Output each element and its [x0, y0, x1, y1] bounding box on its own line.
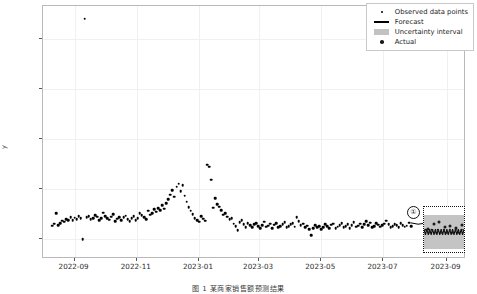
observed-data-point [283, 221, 286, 224]
observed-data-point [234, 225, 237, 228]
x-tick-mark [320, 258, 321, 261]
observed-data-point [92, 217, 95, 220]
observed-data-point [63, 220, 66, 223]
observed-data-point [224, 212, 227, 215]
observed-data-point [269, 222, 272, 225]
x-tick-mark [258, 258, 259, 261]
observed-data-point [385, 219, 388, 222]
observed-data-point [346, 223, 349, 226]
observed-data-point [114, 220, 117, 223]
observed-data-point [291, 222, 294, 225]
x-tick-label: 2023-07 [367, 262, 397, 271]
x-tick-label: 2022-09 [59, 262, 89, 271]
observed-data-point [230, 217, 233, 220]
observed-data-point [171, 189, 174, 192]
inset-zoom-box[interactable] [423, 206, 465, 253]
gridline-vertical [321, 6, 322, 257]
observed-data-point [192, 213, 195, 216]
observed-data-point [198, 220, 201, 223]
x-tick-label: 2023-09 [431, 262, 461, 271]
observed-data-point [102, 211, 105, 214]
observed-data-point [179, 190, 182, 193]
observed-data-point [112, 213, 115, 216]
observed-data-point [71, 219, 74, 222]
observed-data-point [151, 212, 154, 215]
observed-data-point [271, 227, 274, 230]
observed-data-point [275, 222, 278, 225]
observed-data-point [365, 220, 368, 223]
observed-data-point [255, 222, 258, 225]
observed-data-point [383, 222, 386, 225]
observed-data-point [167, 198, 170, 201]
observed-data-point [79, 217, 82, 220]
observed-data-point [75, 218, 78, 221]
legend-item-forecast[interactable]: Forecast [371, 17, 468, 27]
observed-data-point [165, 202, 168, 205]
observed-data-point [59, 222, 62, 225]
observed-data-point [132, 215, 135, 218]
observed-data-point [155, 210, 158, 213]
x-tick-mark [382, 258, 383, 261]
observed-data-point [306, 224, 309, 227]
observed-data-point [218, 205, 221, 208]
observed-data-point [147, 210, 150, 213]
observed-data-point [332, 222, 335, 225]
x-tick-mark [446, 258, 447, 261]
observed-data-point [220, 209, 223, 212]
observed-data-point [263, 220, 266, 223]
x-tick-label: 2023-01 [183, 262, 213, 271]
observed-data-point [318, 225, 321, 228]
actual-data-point [438, 220, 441, 223]
actual-data-point [432, 223, 435, 226]
observed-data-point [55, 212, 58, 215]
observed-data-point [308, 228, 311, 231]
observed-data-point [338, 224, 341, 227]
observed-data-point [349, 227, 352, 230]
x-tick-mark [74, 258, 75, 261]
observed-data-point [96, 215, 99, 218]
gridline-horizontal [43, 139, 464, 140]
gridline-horizontal [43, 89, 464, 90]
observed-data-point [240, 219, 243, 222]
observed-data-point [367, 224, 370, 227]
observed-data-point [245, 226, 248, 229]
observed-data-point [214, 197, 217, 200]
observed-data-point [145, 218, 148, 221]
legend-item-observed[interactable]: Observed data points [371, 7, 468, 17]
observed-data-point [161, 204, 164, 207]
legend-item-actual[interactable]: Actual [371, 37, 468, 47]
gridline-vertical [199, 6, 200, 257]
legend-item-uncertainty[interactable]: Uncertainty interval [371, 27, 468, 37]
observed-data-point [373, 225, 376, 228]
observed-data-point [236, 229, 239, 232]
observed-data-point [328, 227, 331, 230]
x-tick-label: 2022-11 [121, 262, 151, 271]
gridline-horizontal [43, 239, 464, 240]
observed-data-point [340, 222, 343, 225]
observed-data-point [208, 165, 211, 168]
observed-data-point [298, 220, 301, 223]
observed-data-point [322, 226, 325, 229]
observed-data-point [312, 227, 315, 230]
observed-data-point [183, 195, 186, 198]
observed-data-point [363, 223, 366, 226]
gridline-horizontal [43, 189, 464, 190]
observed-data-point [212, 207, 215, 210]
observed-data-point [410, 225, 413, 228]
legend-label-uncertainty: Uncertainty interval [393, 28, 463, 36]
observed-data-point [296, 216, 299, 219]
observed-data-point [189, 209, 192, 212]
observed-data-point [302, 222, 305, 225]
observed-data-point [110, 215, 113, 218]
observed-data-point [159, 209, 162, 212]
observed-data-point [181, 184, 184, 187]
observed-data-point [369, 221, 372, 224]
legend: Observed data points Forecast Uncertaint… [366, 3, 474, 51]
observed-data-point [124, 214, 127, 217]
observed-data-point [361, 226, 364, 229]
observed-data-point [310, 234, 313, 237]
gridline-vertical [259, 6, 260, 257]
observed-data-point [163, 207, 166, 210]
observed-data-point [397, 226, 400, 229]
callout-marker-1: ① [407, 206, 420, 219]
